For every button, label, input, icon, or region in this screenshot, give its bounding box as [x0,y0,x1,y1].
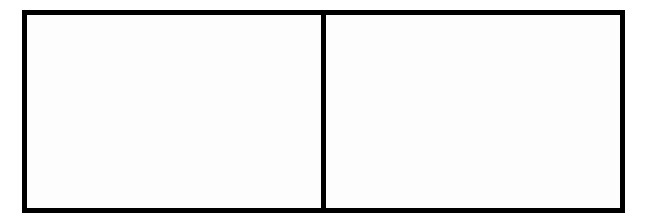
left-panel [27,15,321,208]
right-panel [326,15,620,208]
two-panel-frame [22,10,625,213]
